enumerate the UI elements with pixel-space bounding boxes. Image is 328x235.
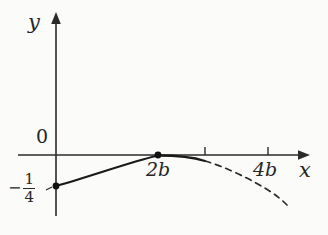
fraction-one-quarter: 1 4 — [23, 172, 35, 206]
minus-sign: − — [8, 180, 21, 197]
parabola-solid-curve — [56, 156, 205, 187]
y-intercept-point — [53, 183, 60, 190]
plot-canvas — [0, 0, 328, 235]
parabola-figure: y x 0 2b 4b − 1 4 — [0, 0, 328, 235]
y-axis-label: y — [28, 12, 40, 33]
y-intercept-label: − 1 4 — [8, 172, 35, 206]
tick-label-4b: 4b — [253, 160, 277, 179]
tick-label-2b: 2b — [146, 160, 170, 179]
fraction-denominator: 4 — [23, 190, 35, 205]
origin-label: 0 — [36, 127, 48, 146]
fraction-numerator: 1 — [23, 172, 35, 187]
x-axis-label: x — [299, 160, 311, 181]
y-axis-arrowhead — [51, 12, 61, 24]
y-intercept-pointer-dash — [46, 187, 52, 190]
